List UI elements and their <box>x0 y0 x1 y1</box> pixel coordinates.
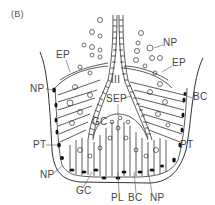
label-iii: III <box>111 75 120 85</box>
label-np-bottom: NP <box>150 193 165 203</box>
label-np-left-upper: NP <box>30 84 45 94</box>
label-np-top-right: NP <box>163 38 178 48</box>
label-pl-bottom: PL <box>111 193 124 203</box>
label-pt-left: PT <box>33 140 46 150</box>
label-np-left-lower: NP <box>40 170 55 180</box>
label-sep: SEP <box>106 94 127 104</box>
label-gc-inner: GC <box>92 117 108 127</box>
label-ep-left: EP <box>56 50 70 60</box>
label-bc-bottom: BC <box>128 193 143 203</box>
panel-label: (B) <box>11 10 24 19</box>
label-bc-right: BC <box>193 92 208 102</box>
label-pt-right: PT <box>180 140 193 150</box>
label-gc-bottom: GC <box>76 186 92 196</box>
histology-diagram: (B) EP NP EP NP BC III SEP GC PT PT NP G… <box>0 0 215 205</box>
label-ep-right: EP <box>172 58 186 68</box>
